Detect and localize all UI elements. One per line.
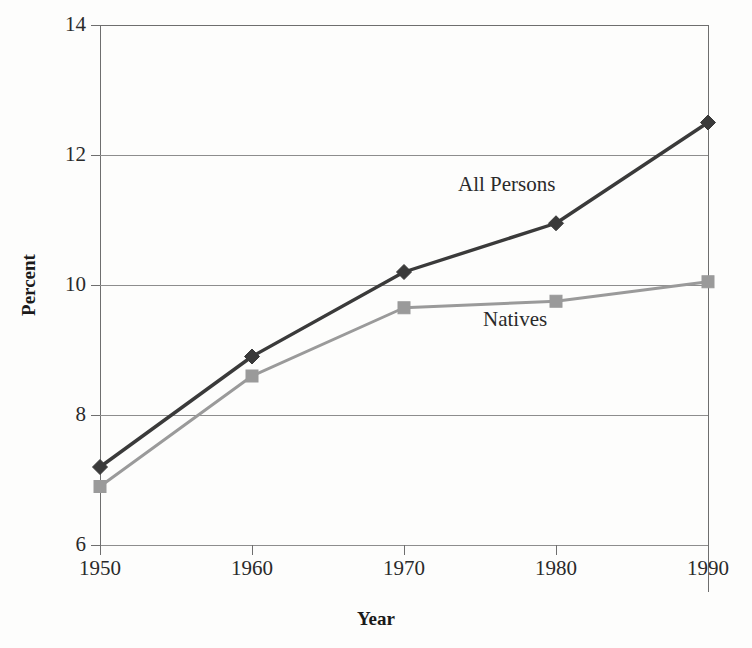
series-annotation-natives: Natives — [483, 307, 547, 332]
chart-series-layer — [0, 0, 752, 648]
data-point-marker — [246, 370, 258, 382]
data-point-marker — [397, 265, 412, 280]
data-point-marker — [702, 276, 714, 288]
data-point-marker — [398, 302, 410, 314]
data-point-marker — [94, 481, 106, 493]
x-axis-title: Year — [0, 608, 752, 630]
data-point-marker — [550, 295, 562, 307]
chart-page: 14 12 10 8 6 1950 1960 1970 1980 1990 Al… — [0, 0, 752, 648]
series-all-persons — [93, 115, 716, 475]
series-annotation-all-persons: All Persons — [458, 172, 555, 197]
y-axis-title: Percent — [18, 225, 40, 345]
series-natives — [94, 276, 714, 493]
